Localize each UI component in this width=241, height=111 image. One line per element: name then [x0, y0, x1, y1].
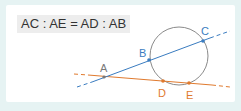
- label-e: E: [186, 89, 193, 101]
- point-c: [201, 39, 205, 43]
- point-d: [161, 79, 165, 83]
- orange-line-dashed-left: [74, 74, 88, 75]
- blue-line-dashed-left: [77, 82, 92, 87]
- label-a: A: [100, 62, 108, 74]
- label-b: B: [139, 47, 146, 59]
- geometry-diagram: A B C D E: [0, 0, 241, 111]
- point-e: [187, 81, 191, 85]
- label-c: C: [201, 25, 209, 37]
- point-b: [147, 58, 151, 62]
- label-d: D: [158, 87, 166, 99]
- point-a: [102, 75, 105, 78]
- blue-line-dashed-right: [210, 31, 230, 38]
- blue-secant-line: [92, 38, 210, 82]
- circle: [150, 27, 208, 85]
- orange-line-dashed-right: [212, 85, 230, 87]
